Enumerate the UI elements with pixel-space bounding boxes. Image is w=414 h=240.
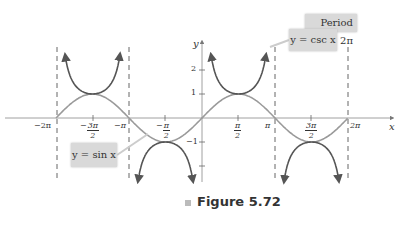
csc-branch <box>284 142 311 180</box>
x-tick--pi-2: −π2 <box>156 121 170 140</box>
sin-label: y = sin x <box>71 143 117 167</box>
figure-caption: Figure 5.72 <box>185 194 281 209</box>
csc-branch <box>93 56 120 94</box>
x-axis-label: x <box>389 121 395 132</box>
csc-branch <box>138 142 166 179</box>
csc-leader-line <box>270 40 289 47</box>
x-tick--pi: −π <box>114 121 126 130</box>
x-tick-3pi-2: 3π2 <box>305 121 317 140</box>
y-tick-1: 1 <box>191 88 196 97</box>
csc-branch <box>211 56 238 94</box>
caption-text: Figure 5.72 <box>197 194 281 209</box>
caption-bullet-icon <box>185 200 191 206</box>
csc-branch <box>312 142 339 179</box>
x-tick--3pi-2: −3π2 <box>80 121 99 140</box>
sin-leader-line <box>117 134 148 155</box>
x-tick-pi-2: π2 <box>234 121 241 140</box>
den: 2 <box>90 131 95 140</box>
num: 3π <box>87 121 99 131</box>
den: 2 <box>235 131 240 140</box>
x-tick-2pi: 2π <box>350 121 360 130</box>
den: 2 <box>164 131 169 140</box>
num: 3π <box>305 121 317 131</box>
y-tick-2: 2 <box>191 64 196 73</box>
num: π <box>163 121 170 131</box>
minus: − <box>156 121 163 130</box>
y-axis-label: y <box>193 38 199 49</box>
x-tick--2pi: −2π <box>34 121 51 130</box>
y-tick--1: −1 <box>186 137 198 146</box>
csc-branch <box>65 57 92 94</box>
minus: − <box>80 121 87 130</box>
csc-branch <box>166 142 193 180</box>
csc-label: y = csc x <box>289 29 337 51</box>
csc-branch <box>239 57 266 94</box>
num: π <box>234 121 241 131</box>
x-tick-pi: π <box>265 121 270 130</box>
den: 2 <box>309 131 314 140</box>
